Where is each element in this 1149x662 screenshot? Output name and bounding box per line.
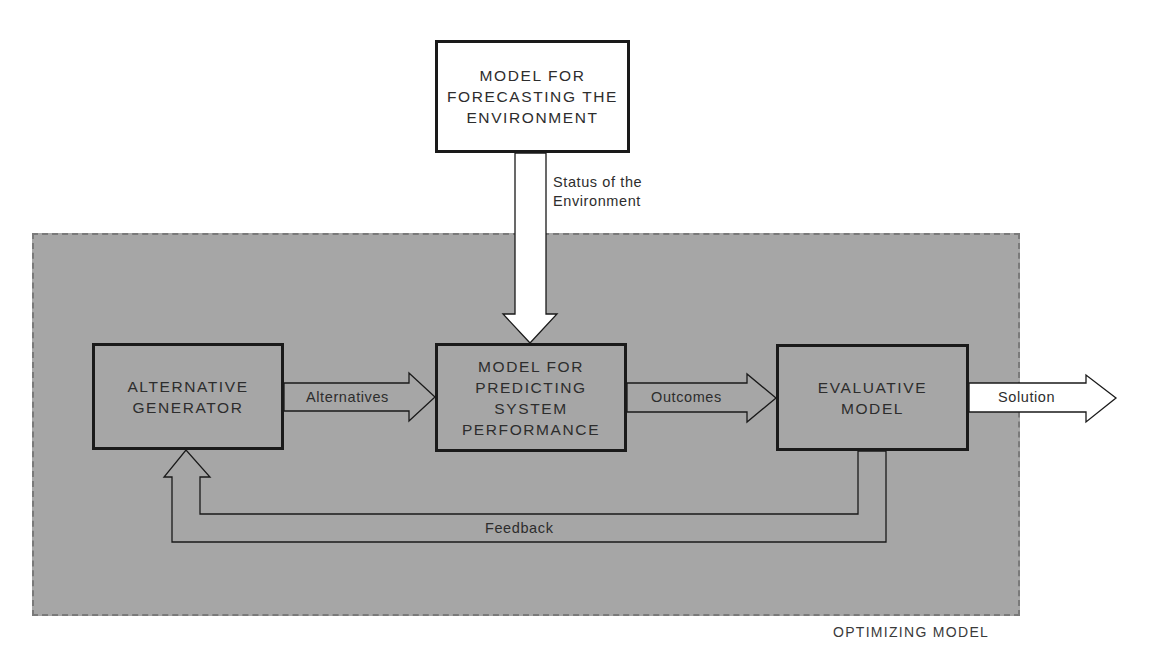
status-arrow-icon	[503, 153, 557, 343]
evaluative-model-box: EVALUATIVE MODEL	[776, 344, 969, 451]
forecasting-model-box: MODEL FOR FORECASTING THE ENVIRONMENT	[435, 40, 630, 153]
alternatives-edge-label: Alternatives	[306, 388, 389, 407]
alternative-generator-box: ALTERNATIVE GENERATOR	[92, 343, 284, 450]
evaluative-model-label: EVALUATIVE MODEL	[818, 377, 927, 419]
outcomes-edge-label: Outcomes	[651, 388, 722, 407]
predicting-model-label: MODEL FOR PREDICTING SYSTEM PERFORMANCE	[462, 356, 600, 440]
feedback-edge-label: Feedback	[485, 519, 553, 538]
alternative-generator-label: ALTERNATIVE GENERATOR	[127, 376, 248, 418]
status-edge-label: Status of the Environment	[553, 173, 642, 211]
diagram-canvas: OPTIMIZING MODEL MODEL FOR FORECASTING T…	[0, 0, 1149, 662]
forecasting-model-label: MODEL FOR FORECASTING THE ENVIRONMENT	[447, 65, 618, 128]
solution-edge-label: Solution	[998, 388, 1055, 407]
predicting-model-box: MODEL FOR PREDICTING SYSTEM PERFORMANCE	[435, 343, 627, 452]
